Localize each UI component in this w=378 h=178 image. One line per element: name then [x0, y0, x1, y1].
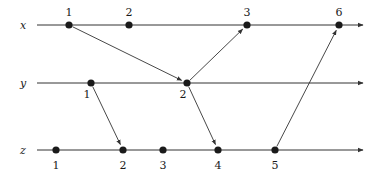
event-label-y2: 2	[180, 88, 187, 101]
event-label-z3: 3	[160, 159, 167, 172]
process-diagram: xyz 12361212345	[0, 0, 378, 178]
event-label-z4: 4	[215, 159, 222, 172]
event-label-x3: 3	[244, 6, 251, 19]
event-label-y1: 1	[84, 88, 91, 101]
event-y2	[183, 79, 190, 86]
event-x2	[125, 21, 132, 28]
message-y2-to-z4	[189, 87, 216, 145]
event-z2	[119, 146, 126, 153]
event-y1	[87, 79, 94, 86]
message-x1-to-y2	[73, 27, 182, 81]
event-z1	[52, 146, 59, 153]
process-label-y: y	[19, 77, 27, 90]
event-label-z1: 1	[53, 159, 60, 172]
message-y1-to-z2	[93, 87, 121, 145]
message-y2-to-x3	[190, 29, 243, 80]
event-z3	[159, 146, 166, 153]
event-label-z2: 2	[120, 159, 127, 172]
process-label-x: x	[20, 19, 27, 32]
process-timelines: xyz	[19, 19, 363, 157]
event-z4	[214, 146, 221, 153]
event-x6	[335, 21, 342, 28]
event-label-x6: 6	[336, 6, 343, 19]
process-label-z: z	[19, 144, 26, 157]
event-dots: 12361212345	[52, 6, 342, 172]
message-arrows	[73, 27, 337, 147]
event-label-x2: 2	[126, 6, 133, 19]
event-label-x1: 1	[66, 6, 73, 19]
event-label-z5: 5	[272, 159, 279, 172]
event-z5	[271, 146, 278, 153]
event-x1	[65, 21, 72, 28]
message-z5-to-x6	[277, 30, 336, 146]
event-x3	[243, 21, 250, 28]
